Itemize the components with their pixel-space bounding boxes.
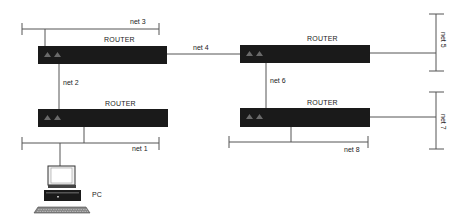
net-7-bus: net 7	[370, 92, 447, 149]
router-1-label: ROUTER	[104, 36, 135, 43]
router-3-label: ROUTER	[105, 100, 136, 107]
net-5-label: net 5	[440, 32, 447, 48]
router-3: ROUTER	[38, 100, 168, 127]
router-2: ROUTER	[240, 35, 370, 63]
net-5-bus: net 5	[370, 14, 447, 71]
net-4-link: net 4	[167, 44, 240, 54]
net-8-bus: net 8	[229, 127, 368, 153]
net-6-link: net 6	[266, 63, 286, 108]
router-2-label: ROUTER	[307, 35, 338, 42]
net-6-label: net 6	[270, 77, 286, 84]
net-7-label: net 7	[440, 114, 447, 130]
router-4: ROUTER	[240, 99, 370, 127]
router-4-label: ROUTER	[307, 99, 338, 106]
net-2-link: net 2	[59, 64, 79, 109]
pc: PC	[34, 166, 102, 213]
router-1: ROUTER	[38, 36, 167, 64]
net-1-bus: net 1	[22, 127, 159, 166]
net-4-label: net 4	[193, 44, 209, 51]
net-2-label: net 2	[63, 79, 79, 86]
pc-icon	[34, 166, 90, 213]
net-3-label: net 3	[130, 18, 146, 25]
network-diagram: net 3 ROUTER net 4 ROUTER net 5 net 2 ne…	[0, 0, 466, 219]
net-1-label: net 1	[132, 145, 148, 152]
net-3-bus: net 3	[22, 18, 159, 46]
net-8-label: net 8	[344, 146, 360, 153]
pc-label: PC	[92, 191, 102, 198]
